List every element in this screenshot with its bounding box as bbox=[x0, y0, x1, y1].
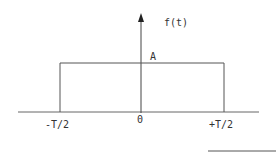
arrow-up-icon bbox=[138, 13, 144, 22]
pulse-waveform bbox=[60, 63, 224, 112]
amplitude-label: A bbox=[150, 52, 156, 62]
right-edge-label: +T/2 bbox=[209, 120, 233, 130]
y-axis-label: f(t) bbox=[164, 18, 188, 28]
left-edge-label: -T/2 bbox=[45, 120, 69, 130]
origin-label: 0 bbox=[137, 115, 143, 125]
diagram-graphics bbox=[0, 0, 276, 161]
pulse-diagram: f(t) A 0 -T/2 +T/2 bbox=[0, 0, 276, 161]
